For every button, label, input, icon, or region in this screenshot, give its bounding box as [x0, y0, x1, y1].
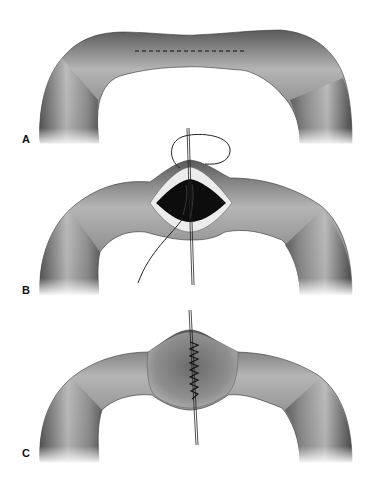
- panel-label-b: B: [22, 284, 30, 296]
- illustration-svg: [0, 0, 378, 485]
- panel-label-c: C: [22, 447, 30, 459]
- panel-label-a: A: [22, 133, 30, 145]
- panel-a: [35, 30, 360, 146]
- panel-c: [35, 310, 360, 464]
- surgical-illustration: A B C: [0, 0, 378, 485]
- panel-b: [35, 128, 360, 296]
